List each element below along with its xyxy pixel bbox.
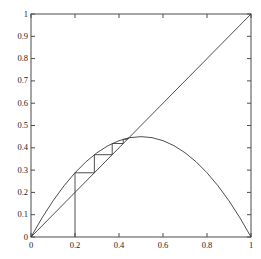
x-tick-label: 0.6 xyxy=(151,240,175,250)
cobweb-path xyxy=(75,138,129,237)
y-tick-label: 0.5 xyxy=(17,120,28,130)
y-tick-label: 0.4 xyxy=(17,142,28,152)
x-tick-label: 0.2 xyxy=(63,240,87,250)
logistic-curve xyxy=(31,137,251,237)
cobweb-figure: 00.10.20.30.40.50.60.70.80.91 00.20.40.6… xyxy=(0,0,261,259)
y-tick-label: 0.2 xyxy=(17,187,28,197)
y-tick-label: 0.1 xyxy=(17,209,28,219)
x-tick-label: 0.4 xyxy=(107,240,131,250)
y-tick-label: 0.8 xyxy=(17,53,28,63)
x-tick-label: 1 xyxy=(239,240,261,250)
x-tick-label: 0.8 xyxy=(195,240,219,250)
y-tick-label: 0.7 xyxy=(17,75,28,85)
y-tick-label: 1 xyxy=(24,9,28,19)
y-tick-label: 0.9 xyxy=(17,31,28,41)
x-tick-label: 0 xyxy=(19,240,43,250)
y-tick-label: 0.3 xyxy=(17,165,28,175)
identity-line xyxy=(31,14,251,237)
plot-canvas xyxy=(0,0,261,259)
y-tick-label: 0.6 xyxy=(17,98,28,108)
